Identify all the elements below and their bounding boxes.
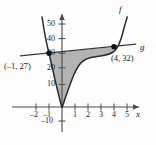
graph-figure: 50 40 30 20 10 –10 –2 –1 1 2 3 4 5 x f g… <box>0 0 156 145</box>
x-axis-label: x <box>136 110 140 119</box>
x-tick-label-minus-2: –2 <box>30 111 38 119</box>
y-tick-label-50: 50 <box>47 20 55 28</box>
x-tick-label-minus-1: –1 <box>43 111 51 119</box>
point-right-label: (4, 32) <box>111 54 134 63</box>
coordinate-plot <box>0 0 156 145</box>
y-axis-arrow <box>59 14 65 20</box>
curve-f-label: f <box>119 5 122 14</box>
y-tick-label-30: 30 <box>47 49 55 57</box>
x-tick-label-5: 5 <box>125 111 129 119</box>
point-right-intersection <box>111 44 116 49</box>
curve-g-label: g <box>140 43 145 52</box>
x-tick-label-4: 4 <box>112 111 116 119</box>
point-left-label: (–1, 27) <box>4 62 31 71</box>
x-tick-label-1: 1 <box>73 111 77 119</box>
x-tick-label-3: 3 <box>99 111 103 119</box>
x-tick-label-2: 2 <box>86 111 90 119</box>
y-tick-label-10: 10 <box>47 80 55 88</box>
y-tick-label-20: 20 <box>47 64 55 72</box>
y-tick-label-40: 40 <box>47 35 55 43</box>
